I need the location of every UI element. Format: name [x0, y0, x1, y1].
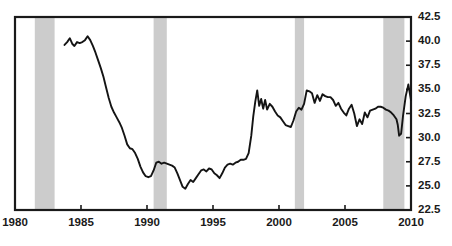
y-tick-label: 40.0 [418, 34, 440, 46]
y-tick-label: 32.5 [418, 107, 441, 119]
x-tick-label: 1990 [134, 216, 160, 228]
y-tick-label: 25.0 [418, 179, 440, 191]
y-tick-label: 35.0 [418, 82, 440, 94]
data-line-series-1 [65, 36, 412, 188]
y-tick-label: 27.5 [418, 155, 441, 167]
y-tick-label: 37.5 [418, 58, 441, 70]
x-tick-label: 1980 [2, 216, 28, 228]
x-tick-label: 2010 [398, 216, 424, 228]
shaded-band-recession-1990-1991 [154, 17, 167, 210]
shaded-recession-bands [35, 17, 405, 210]
y-axis-tick-labels: 22.525.027.530.032.535.037.540.042.5 [418, 10, 441, 215]
x-tick-label: 1995 [200, 216, 226, 228]
x-axis-tick-labels: 1980198519901995200020052010 [2, 216, 424, 228]
x-tick-label: 2005 [332, 216, 358, 228]
shaded-band-recession-2007-2009 [383, 17, 404, 210]
y-tick-label: 30.0 [418, 131, 440, 143]
chart-container: 22.525.027.530.032.535.037.540.042.5 198… [0, 0, 452, 246]
x-tick-label: 1985 [68, 216, 94, 228]
line-chart: 22.525.027.530.032.535.037.540.042.5 198… [0, 0, 452, 246]
y-tick-label: 22.5 [418, 203, 441, 215]
x-tick-label: 2000 [266, 216, 292, 228]
shaded-band-recession-1981-1982 [35, 17, 55, 210]
data-series-group [65, 36, 412, 188]
y-tick-label: 42.5 [418, 10, 441, 22]
